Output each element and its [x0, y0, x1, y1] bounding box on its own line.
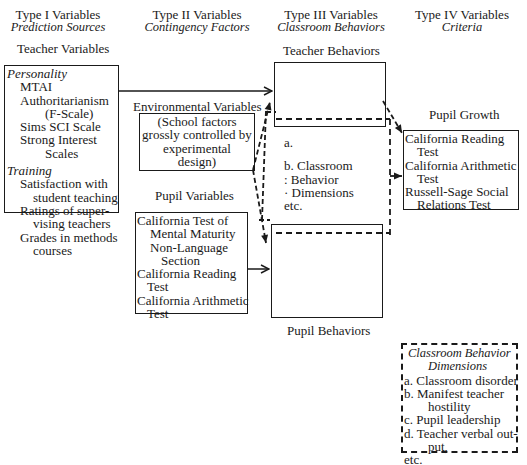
teacher-behaviors-to-growth-dashed-arrow: [383, 101, 402, 133]
environment-to-teacher-behaviors-dashed-arrow: [253, 102, 276, 220]
dimension-dashed-lines: [276, 119, 402, 235]
connector-lines: [0, 0, 527, 465]
environment-to-pupil-behaviors-dashed-arrow: [253, 170, 270, 243]
